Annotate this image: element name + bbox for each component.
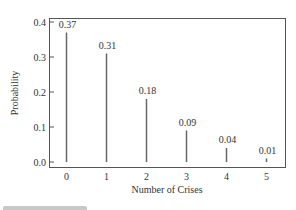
x-tick-label: 1 <box>104 171 109 182</box>
y-tick-label: 0.0 <box>34 157 47 168</box>
scroll-indicator <box>3 206 87 210</box>
x-axis-label: Number of Crises <box>131 184 202 195</box>
y-tick-label: 0.4 <box>34 17 47 28</box>
y-tick-label: 0.2 <box>34 87 47 98</box>
value-label: 0.01 <box>259 145 277 156</box>
x-tick-label: 2 <box>144 171 149 182</box>
x-tick-label: 5 <box>264 171 269 182</box>
x-tick-label: 4 <box>224 171 229 182</box>
x-tick-label: 0 <box>64 171 69 182</box>
x-tick-label: 3 <box>184 171 189 182</box>
value-label: 0.18 <box>139 85 157 96</box>
chart: 0.00.10.20.30.4 012345 0.370.310.180.090… <box>0 0 296 210</box>
y-axis: 0.00.10.20.30.4 <box>34 17 55 168</box>
y-tick-label: 0.1 <box>34 122 47 133</box>
plot-frame <box>50 19 286 168</box>
y-axis-label: Probability <box>9 71 20 115</box>
y-tick-label: 0.3 <box>34 52 47 63</box>
value-label: 0.04 <box>219 134 237 145</box>
value-label: 0.31 <box>99 40 117 51</box>
value-label: 0.37 <box>59 19 77 30</box>
value-label: 0.09 <box>179 117 197 128</box>
x-axis: 012345 <box>64 171 269 182</box>
stems: 0.370.310.180.090.040.01 <box>59 19 277 163</box>
